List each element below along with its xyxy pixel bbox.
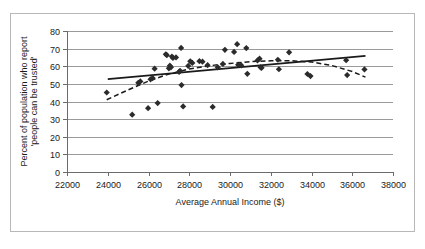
xtick-label-30000: 30000 xyxy=(218,180,243,190)
y-axis-title-line1: Percent of population who report xyxy=(19,36,29,167)
ytick-label-20: 20 xyxy=(50,133,60,143)
data-point xyxy=(244,71,250,77)
y-axis-title: Percent of population who report'people … xyxy=(19,36,39,167)
data-point xyxy=(129,112,135,118)
data-point xyxy=(234,41,240,47)
xtick-label-36000: 36000 xyxy=(340,180,365,190)
data-point xyxy=(276,66,282,72)
figure-container: 0102030405060708022000240002600028000300… xyxy=(0,0,425,249)
data-point xyxy=(286,49,292,55)
data-point xyxy=(275,57,281,63)
data-point xyxy=(104,89,110,95)
ytick-label-0: 0 xyxy=(55,168,60,178)
data-point xyxy=(178,45,184,51)
data-point xyxy=(344,72,350,78)
xtick-label-28000: 28000 xyxy=(177,180,202,190)
ytick-label-50: 50 xyxy=(50,80,60,90)
data-point xyxy=(145,105,151,111)
ytick-label-70: 70 xyxy=(50,45,60,55)
data-point xyxy=(204,62,210,68)
xtick-label-32000: 32000 xyxy=(259,180,284,190)
data-point xyxy=(222,47,228,53)
ytick-label-30: 30 xyxy=(50,115,60,125)
chart-frame: 0102030405060708022000240002600028000300… xyxy=(10,13,415,232)
ytick-label-40: 40 xyxy=(50,98,60,108)
y-axis-title-line2: 'people can be trusted' xyxy=(29,56,39,146)
xtick-label-26000: 26000 xyxy=(137,180,162,190)
x-axis-title: Average Annual Income ($) xyxy=(176,197,285,207)
xtick-label-38000: 38000 xyxy=(381,180,406,190)
data-point xyxy=(210,104,216,110)
scatter-plot: 0102030405060708022000240002600028000300… xyxy=(11,14,414,231)
ytick-label-80: 80 xyxy=(50,27,60,37)
data-point xyxy=(361,66,367,72)
data-point xyxy=(180,103,186,109)
ytick-label-10: 10 xyxy=(50,150,60,160)
xtick-label-22000: 22000 xyxy=(55,180,80,190)
linear-trend xyxy=(108,56,366,79)
data-point xyxy=(243,45,249,51)
data-point xyxy=(155,100,161,106)
data-point xyxy=(178,82,184,88)
xtick-label-34000: 34000 xyxy=(300,180,325,190)
ytick-label-60: 60 xyxy=(50,62,60,72)
xtick-label-24000: 24000 xyxy=(96,180,121,190)
